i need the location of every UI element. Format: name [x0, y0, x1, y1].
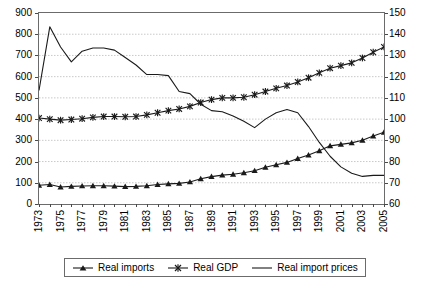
- y-axis-right-tick-label: 80: [389, 157, 423, 167]
- y-axis-left-tick: [35, 13, 38, 14]
- y-axis-right-tick: [385, 77, 388, 78]
- x-axis-tick: [384, 204, 385, 207]
- series-line: [39, 47, 384, 120]
- y-axis-left-tick-label: 300: [0, 135, 32, 145]
- legend-label: Real import prices: [277, 263, 358, 273]
- x-axis-tick: [276, 204, 277, 207]
- x-axis-tick: [222, 204, 223, 207]
- plot-area: [38, 12, 385, 205]
- y-axis-right-tick-label: 60: [389, 199, 423, 209]
- x-axis-tick: [212, 204, 213, 207]
- x-axis-tick: [82, 204, 83, 207]
- x-axis-tick: [341, 204, 342, 207]
- y-axis-left-tick: [35, 183, 38, 184]
- y-axis-left-tick: [35, 77, 38, 78]
- legend-item[interactable]: Real imports: [72, 263, 154, 273]
- x-axis-tick: [71, 204, 72, 207]
- y-axis-right-tick-label: 130: [389, 50, 423, 60]
- x-axis-tick: [265, 204, 266, 207]
- y-axis-right-tick: [385, 13, 388, 14]
- y-axis-left-tick-label: 200: [0, 157, 32, 167]
- y-axis-left-tick-label: 400: [0, 114, 32, 124]
- y-axis-left-tick-label: 900: [0, 8, 32, 18]
- x-axis-tick-label: 1977: [77, 210, 87, 232]
- x-axis-tick: [373, 204, 374, 207]
- x-axis-tick: [190, 204, 191, 207]
- x-axis-tick-label: 1999: [314, 210, 324, 232]
- legend-symbol-none-icon: [251, 263, 273, 273]
- y-axis-right-tick: [385, 34, 388, 35]
- y-axis-left-tick-label: 800: [0, 29, 32, 39]
- x-axis-tick: [93, 204, 94, 207]
- y-axis-left-tick: [35, 140, 38, 141]
- legend-item[interactable]: Real GDP: [167, 263, 238, 273]
- y-axis-left-tick-label: 500: [0, 93, 32, 103]
- x-axis-tick: [39, 204, 40, 207]
- y-axis-right-tick: [385, 55, 388, 56]
- x-axis-tick-label: 2005: [379, 210, 389, 232]
- x-axis-tick-label: 1975: [56, 210, 66, 232]
- chart-legend: Real importsReal GDPReal import prices: [64, 258, 366, 277]
- x-axis-tick: [104, 204, 105, 207]
- x-axis-tick-label: 2003: [357, 210, 367, 232]
- y-axis-left-tick: [35, 55, 38, 56]
- y-axis-right-tick: [385, 183, 388, 184]
- y-axis-right-tick: [385, 162, 388, 163]
- legend-label: Real imports: [98, 263, 154, 273]
- y-axis-right-tick-label: 120: [389, 72, 423, 82]
- x-axis-tick: [50, 204, 51, 207]
- x-axis-tick: [255, 204, 256, 207]
- y-axis-right-tick-label: 150: [389, 8, 423, 18]
- x-axis-tick: [147, 204, 148, 207]
- y-axis-right-tick-label: 70: [389, 178, 423, 188]
- y-axis-left-tick-label: 0: [0, 199, 32, 209]
- y-axis-left-tick: [35, 34, 38, 35]
- x-axis-tick: [298, 204, 299, 207]
- y-axis-left-tick-label: 600: [0, 72, 32, 82]
- x-axis-tick-label: 1973: [34, 210, 44, 232]
- x-axis-tick: [287, 204, 288, 207]
- x-axis-tick-label: 1995: [271, 210, 281, 232]
- x-axis-tick: [125, 204, 126, 207]
- y-axis-left-tick-label: 700: [0, 50, 32, 60]
- chart-container: Real importsReal GDPReal import prices 0…: [0, 0, 439, 281]
- x-axis-tick: [168, 204, 169, 207]
- legend-label: Real GDP: [193, 263, 238, 273]
- y-axis-right-tick-label: 110: [389, 93, 423, 103]
- x-axis-tick: [362, 204, 363, 207]
- y-axis-right-tick: [385, 119, 388, 120]
- x-axis-tick: [179, 204, 180, 207]
- x-axis-tick-label: 1987: [185, 210, 195, 232]
- x-axis-tick: [61, 204, 62, 207]
- y-axis-left-tick: [35, 204, 38, 205]
- y-axis-right-tick-label: 100: [389, 114, 423, 124]
- y-axis-right-tick: [385, 204, 388, 205]
- x-axis-tick: [244, 204, 245, 207]
- x-axis-tick: [158, 204, 159, 207]
- legend-symbol-triangle-icon: [72, 263, 94, 273]
- y-axis-right-tick: [385, 140, 388, 141]
- x-axis-tick: [233, 204, 234, 207]
- x-axis-tick: [114, 204, 115, 207]
- data-series-layer: [39, 13, 384, 204]
- x-axis-tick-label: 1991: [228, 210, 238, 232]
- y-axis-left-tick-label: 100: [0, 178, 32, 188]
- x-axis-tick: [136, 204, 137, 207]
- x-axis-tick-label: 1989: [207, 210, 217, 232]
- y-axis-left-tick: [35, 119, 38, 120]
- y-axis-left-tick: [35, 98, 38, 99]
- legend-item[interactable]: Real import prices: [251, 263, 358, 273]
- x-axis-tick-label: 2001: [336, 210, 346, 232]
- x-axis-tick: [201, 204, 202, 207]
- x-axis-tick: [319, 204, 320, 207]
- x-axis-tick: [352, 204, 353, 207]
- y-axis-right-tick: [385, 98, 388, 99]
- y-axis-right-tick-label: 90: [389, 135, 423, 145]
- x-axis-tick-label: 1981: [120, 210, 130, 232]
- x-axis-tick-label: 1985: [163, 210, 173, 232]
- x-axis-tick-label: 1983: [142, 210, 152, 232]
- x-axis-tick-label: 1979: [99, 210, 109, 232]
- legend-symbol-star-icon: [167, 263, 189, 273]
- y-axis-right-tick-label: 140: [389, 29, 423, 39]
- x-axis-tick-label: 1997: [293, 210, 303, 232]
